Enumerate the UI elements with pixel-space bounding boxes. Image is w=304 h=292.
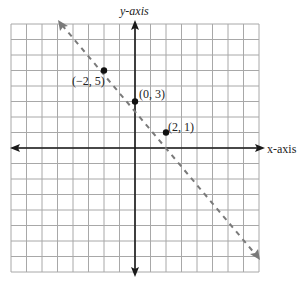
x-axis	[10, 144, 265, 152]
point-label-2-1: (2, 1)	[168, 121, 194, 133]
point-label-neg2-5: (−2, 5)	[72, 75, 105, 87]
coordinate-plane	[0, 0, 304, 292]
point-dot	[132, 98, 138, 104]
point-dot	[101, 67, 107, 73]
y-axis-label: y-axis	[120, 5, 149, 17]
x-axis-label: x-axis	[267, 143, 296, 155]
point-label-0-3: (0, 3)	[139, 88, 165, 100]
line-upper-arrow-icon	[58, 20, 68, 31]
